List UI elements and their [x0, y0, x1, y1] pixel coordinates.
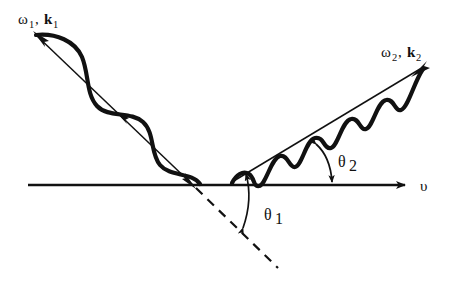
scattered-wave-group [232, 61, 430, 186]
theta2-subscript: 2 [349, 157, 357, 174]
theta1-label: θ 1 [264, 206, 283, 227]
incident-omega-subscript: 1 [29, 19, 34, 30]
scattered-label-comma: , [398, 44, 402, 60]
incident-ray-line [36, 35, 194, 186]
theta1-arc-group [243, 174, 249, 228]
theta2-label: θ 2 [338, 153, 357, 174]
incident-omega-symbol: ω [18, 11, 28, 27]
incident-label: ω 1 , k 1 [18, 11, 58, 30]
scattered-omega-symbol: ω [381, 44, 391, 60]
scattered-k-subscript: 2 [416, 52, 421, 63]
incident-k-subscript: 1 [53, 19, 58, 30]
theta1-symbol: θ [264, 206, 272, 223]
incident-sinusoid [36, 35, 200, 184]
incident-label-comma: , [35, 11, 39, 27]
dashed-incident-extension [196, 188, 278, 268]
scattering-diagram: υ ω 1 , k 1 [0, 0, 464, 282]
incident-wave-group [33, 31, 200, 189]
scattered-ray-line [232, 69, 420, 182]
theta1-arc [243, 174, 249, 228]
axis-label-upsilon: υ [420, 178, 427, 194]
scattered-omega-subscript: 2 [392, 52, 397, 63]
scattered-label: ω 2 , k 2 [381, 44, 421, 63]
incident-k-symbol: k [44, 11, 53, 27]
scattered-sinusoid [232, 69, 423, 186]
theta2-symbol: θ [338, 153, 346, 170]
scattered-k-symbol: k [407, 44, 416, 60]
theta1-subscript: 1 [275, 210, 283, 227]
